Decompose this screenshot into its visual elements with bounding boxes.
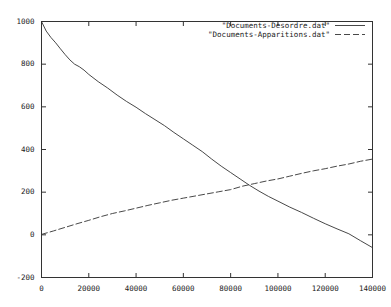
legend-label-1: "Documents-Desordre.dat" bbox=[120, 21, 330, 30]
axis-frame bbox=[42, 22, 373, 278]
data-series-group bbox=[42, 22, 373, 248]
x-tick-label: 120000 bbox=[302, 284, 348, 293]
y-tick-label: 600 bbox=[0, 102, 35, 111]
y-tick-label: 200 bbox=[0, 187, 35, 196]
y-tick-label: -200 bbox=[0, 273, 35, 282]
x-tick-label: 80000 bbox=[208, 284, 254, 293]
x-tick-label: 40000 bbox=[113, 284, 159, 293]
plot-area bbox=[0, 0, 391, 307]
y-tick-label: 800 bbox=[0, 59, 35, 68]
x-tick-label: 20000 bbox=[66, 284, 112, 293]
x-tick-label: 100000 bbox=[255, 284, 301, 293]
y-axis-ticks bbox=[42, 22, 373, 278]
series-line-1 bbox=[42, 22, 373, 248]
y-tick-label: 1000 bbox=[0, 17, 35, 26]
x-tick-label: 140000 bbox=[350, 284, 391, 293]
legend-key-samples bbox=[335, 26, 365, 35]
x-tick-label: 0 bbox=[19, 284, 65, 293]
y-tick-label: 0 bbox=[0, 230, 35, 239]
chart-container: -200020040060080010000200004000060000800… bbox=[0, 0, 391, 307]
x-tick-label: 60000 bbox=[160, 284, 206, 293]
x-axis-ticks bbox=[42, 22, 373, 278]
legend-label-2: "Documents-Apparitions.dat" bbox=[120, 30, 330, 39]
y-tick-label: 400 bbox=[0, 145, 35, 154]
